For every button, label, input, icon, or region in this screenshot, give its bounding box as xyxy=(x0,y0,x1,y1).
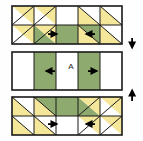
top-r1c3-square xyxy=(56,6,78,25)
top-block xyxy=(12,6,122,44)
middle-block-background xyxy=(12,52,122,90)
join-arrow-up-icon xyxy=(128,89,136,102)
join-arrow-down-icon xyxy=(128,38,136,50)
quilt-assembly-diagram: A xyxy=(0,0,143,141)
side-join-arrows xyxy=(128,38,136,101)
center-unit-label: A xyxy=(62,62,80,71)
bottom-r1c3-square xyxy=(56,97,78,116)
middle-block xyxy=(12,52,122,90)
bottom-block xyxy=(12,97,122,135)
bottom-r2c3-square xyxy=(56,116,78,135)
top-r2c3-square xyxy=(56,25,78,44)
